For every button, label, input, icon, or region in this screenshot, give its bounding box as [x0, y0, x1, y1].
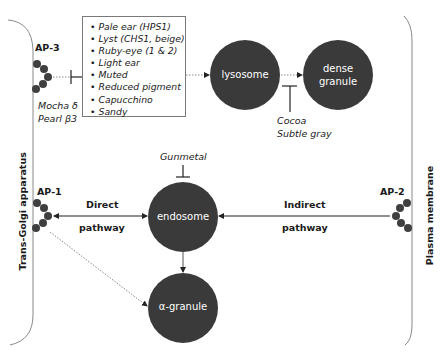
ap3-coat-icon	[32, 60, 52, 93]
mutant-item: Sandy	[90, 106, 185, 118]
mutant-item: Light ear	[90, 57, 185, 69]
ap2-coat-icon	[392, 199, 412, 232]
mocha-label: Mocha δ	[38, 100, 78, 112]
mutant-item: Lyst (CHS1, beige)	[90, 33, 185, 45]
gunmetal-label: Gunmetal	[160, 151, 207, 163]
direct-pathway-label-line2: pathway	[79, 222, 125, 234]
lysosome-label: lysosome	[221, 69, 268, 81]
dense-granule-circle	[303, 40, 373, 110]
dense-granule-label-line2: granule	[319, 76, 357, 88]
mutant-list: Pale ear (HPS1) Lyst (CHS1, beige) Ruby-…	[90, 21, 185, 118]
ap1-to-alpha-granule-arrow	[50, 232, 147, 306]
trans-golgi-label: Trans-Golgi apparatus	[17, 161, 28, 271]
pearl-label: Pearl β3	[38, 113, 77, 125]
direct-pathway-label-line1: Direct	[86, 199, 118, 211]
ap3-label: AP-3	[35, 42, 60, 54]
diagram-canvas	[0, 0, 443, 356]
indirect-pathway-label-line1: Indirect	[284, 199, 326, 211]
mutant-list-box: Pale ear (HPS1) Lyst (CHS1, beige) Ruby-…	[82, 16, 186, 117]
dense-granule-label-line1: dense	[323, 63, 353, 75]
ap1-label: AP-1	[37, 186, 62, 198]
plasma-membrane-label: Plasma membrane	[424, 161, 435, 271]
mutant-item: Reduced pigment	[90, 81, 185, 93]
mutant-item: Pale ear (HPS1)	[90, 21, 185, 33]
alpha-granule-label: α-granule	[159, 301, 207, 313]
subtle-gray-label: Subtle gray	[277, 128, 332, 140]
mutant-item: Muted	[90, 69, 185, 81]
mutant-item: Capucchino	[90, 94, 185, 106]
cocoa-label: Cocoa	[277, 115, 306, 127]
ap2-label: AP-2	[380, 186, 405, 198]
endosome-label: endosome	[157, 211, 209, 223]
indirect-pathway-label-line2: pathway	[282, 222, 328, 234]
ap1-coat-icon	[32, 199, 52, 232]
plasma-membrane	[404, 16, 412, 345]
mutant-item: Ruby-eye (1 & 2)	[90, 45, 185, 57]
